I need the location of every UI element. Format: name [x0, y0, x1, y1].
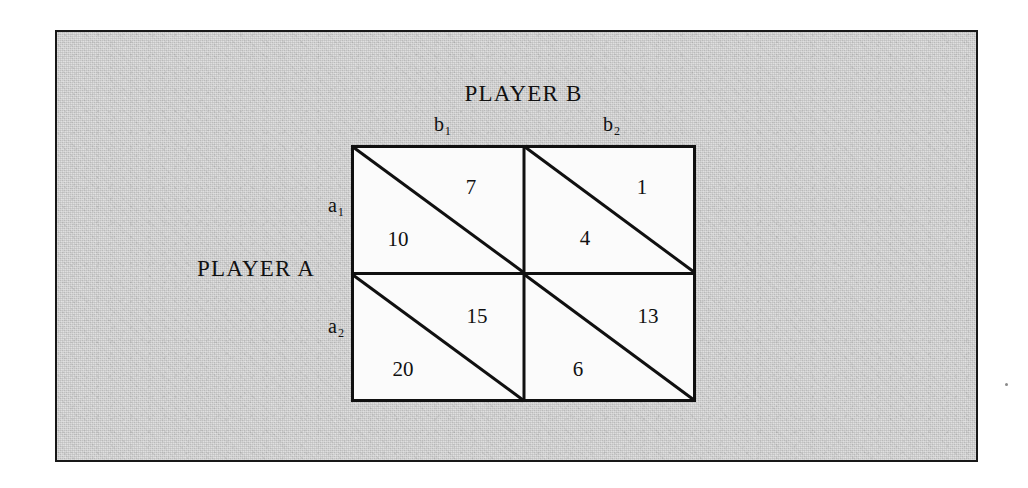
column-header-b2-text: b₂	[603, 113, 621, 135]
payoff-a1b2-upper-right: 1	[637, 177, 648, 198]
figure-frame: PLAYER B PLAYER A b₁ b₂ a₁ a₂ 7 10 1	[55, 30, 978, 462]
row-header-a2: a₂	[328, 316, 345, 336]
payoff-a1b1-upper-right: 7	[466, 177, 477, 198]
player-a-title: PLAYER A	[197, 257, 315, 280]
page-speck	[1005, 383, 1008, 386]
payoff-a1b1-lower-left: 10	[388, 229, 409, 250]
player-b-title: PLAYER B	[2, 82, 1028, 105]
column-header-b2: b₂	[603, 114, 621, 134]
row-header-a2-text: a₂	[328, 315, 345, 337]
payoff-a2b1-upper-right: 15	[467, 306, 488, 327]
payoff-matrix: 7 10 1 4 15 20 13 6	[351, 145, 696, 402]
payoff-a1b2-lower-left: 4	[580, 228, 591, 249]
payoff-a2b2-upper-right: 13	[638, 306, 659, 327]
row-header-a1-text: a₁	[328, 194, 345, 216]
column-header-b1-text: b₁	[434, 113, 452, 135]
payoff-a2b2-lower-left: 6	[573, 359, 584, 380]
payoff-a2b1-lower-left: 20	[393, 359, 414, 380]
column-header-b1: b₁	[434, 114, 452, 134]
row-header-a1: a₁	[328, 195, 345, 215]
